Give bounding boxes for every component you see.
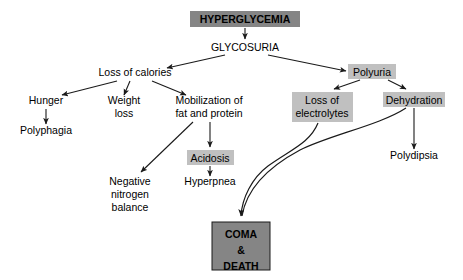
flowchart-diagram: HYPERGLYCEMIAGLYCOSURIALoss of caloriesP… — [0, 0, 463, 280]
node-loss-of-electrolytes: Loss ofelectrolytes — [292, 92, 353, 122]
node-label-negative-nitrogen-balance: Negative — [109, 175, 151, 187]
edge-loss-of-electrolytes-to-coma — [241, 123, 318, 216]
node-dehydration: Dehydration — [383, 92, 445, 107]
node-mobilization: Mobilization offat and protein — [175, 94, 242, 119]
node-label-glycosuria: GLYCOSURIA — [211, 41, 279, 53]
node-label-weight-loss: Weight — [108, 94, 141, 106]
node-label-polyuria: Polyuria — [353, 66, 391, 78]
nodes-layer: HYPERGLYCEMIAGLYCOSURIALoss of caloriesP… — [20, 11, 445, 272]
edge-polyuria-to-loss-of-electrolytes — [334, 80, 360, 89]
node-glycosuria: GLYCOSURIA — [211, 41, 279, 53]
node-weight-loss: Weightloss — [108, 94, 141, 119]
node-label-coma-death: DEATH — [223, 260, 258, 272]
edge-mobilization-to-negative-nitrogen — [141, 122, 193, 172]
node-label-hunger: Hunger — [29, 94, 64, 106]
node-label-weight-loss: loss — [115, 107, 134, 119]
node-loss-of-calories: Loss of calories — [99, 66, 172, 78]
node-label-negative-nitrogen-balance: nitrogen — [111, 188, 149, 200]
node-label-loss-of-calories: Loss of calories — [99, 66, 172, 78]
node-label-hyperglycemia: HYPERGLYCEMIA — [200, 13, 291, 25]
node-label-loss-of-electrolytes: Loss of — [305, 94, 339, 106]
edge-polyuria-to-dehydration — [388, 80, 406, 89]
node-label-loss-of-electrolytes: electrolytes — [295, 107, 348, 119]
node-label-acidosis: Acidosis — [190, 152, 229, 164]
node-label-coma-death: & — [237, 244, 245, 256]
edge-glycosuria-to-loss-of-calories — [167, 55, 225, 68]
node-acidosis: Acidosis — [187, 150, 234, 165]
node-label-hyperpnea: Hyperpnea — [184, 175, 236, 187]
node-label-polyphagia: Polyphagia — [20, 124, 72, 136]
node-negative-nitrogen-balance: Negativenitrogenbalance — [109, 175, 151, 213]
node-label-mobilization: Mobilization of — [175, 94, 242, 106]
edge-loss-of-calories-to-weight-loss — [124, 81, 130, 95]
node-label-mobilization: fat and protein — [175, 107, 242, 119]
node-hunger: Hunger — [29, 94, 64, 106]
node-polyuria: Polyuria — [348, 64, 396, 79]
node-polyphagia: Polyphagia — [20, 124, 72, 136]
flowchart-canvas: HYPERGLYCEMIAGLYCOSURIALoss of caloriesP… — [0, 0, 463, 280]
node-label-coma-death: COMA — [225, 228, 257, 240]
edges-layer — [46, 28, 414, 216]
edge-glycosuria-to-polyuria — [268, 55, 346, 71]
node-label-polydipsia: Polydipsia — [390, 149, 438, 161]
edge-loss-of-calories-to-hunger — [62, 81, 117, 95]
node-label-negative-nitrogen-balance: balance — [112, 201, 149, 213]
edge-loss-of-calories-to-mobilization — [152, 81, 186, 95]
edge-dehydration-to-coma — [242, 108, 406, 216]
node-coma-death: COMA&DEATH — [212, 222, 270, 272]
node-hyperglycemia: HYPERGLYCEMIA — [190, 11, 300, 27]
node-polydipsia: Polydipsia — [390, 149, 438, 161]
node-hyperpnea: Hyperpnea — [184, 175, 236, 187]
node-label-dehydration: Dehydration — [386, 94, 443, 106]
